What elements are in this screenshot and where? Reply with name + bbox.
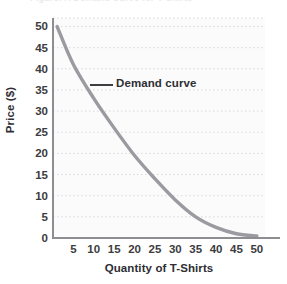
x-axis-line: [52, 237, 280, 239]
clipped-figure-caption: Figure: A Demand Curve for T-Shirts: [30, 0, 280, 3]
y-tick-label: 15: [2, 169, 48, 181]
y-tick-label: 45: [2, 42, 48, 54]
y-tick-label: 40: [2, 63, 48, 75]
demand-curve-figure: Figure: A Demand Curve for T-Shirts 0510…: [0, 0, 287, 284]
y-tick-label: 20: [2, 147, 48, 159]
demand-curve-line: [53, 18, 265, 238]
y-tick-label: 50: [2, 20, 48, 32]
annotation-leader-line: [90, 84, 113, 86]
y-axis-title: Price ($): [4, 75, 16, 145]
plot-area: [53, 18, 265, 238]
y-tick-label: 10: [2, 190, 48, 202]
y-tick-label: 5: [2, 211, 48, 223]
demand-curve-annotation-label: Demand curve: [116, 77, 196, 89]
x-axis-title: Quantity of T-Shirts: [53, 262, 265, 274]
y-tick-label: 0: [2, 232, 48, 244]
x-tick-label: 50: [242, 243, 272, 255]
y-axis-line: [52, 18, 54, 239]
